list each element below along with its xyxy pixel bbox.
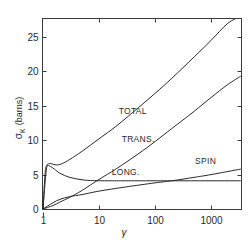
curve-spin [43, 169, 241, 209]
x-axis-ticks: 1101001000 [41, 19, 223, 226]
y-axis-label: σK(barns) [13, 97, 26, 139]
y-tick-label: 15 [27, 101, 39, 112]
x-tick-label: 1000 [200, 215, 223, 226]
y-tick-label: 10 [27, 135, 39, 146]
label-spin: SPIN [195, 156, 216, 166]
x-tick-label: 10 [94, 215, 106, 226]
x-axis-label: γ [122, 227, 128, 238]
y-tick-label: 5 [33, 170, 39, 181]
label-trans: TRANS. [122, 134, 155, 144]
y-axis-ticks: 0510152025 [27, 32, 241, 215]
chart: 0510152025 1101001000 TOTALTRANS.LONG.SP… [0, 0, 252, 251]
svg-text:σK(barns): σK(barns) [13, 97, 26, 139]
y-axis-label-unit: (barns) [14, 97, 24, 126]
y-tick-label: 25 [27, 32, 39, 43]
x-tick-label: 1 [41, 215, 47, 226]
y-tick-label: 0 [33, 204, 39, 215]
curve-long [43, 165, 241, 209]
label-total: TOTAL [119, 106, 147, 116]
y-tick-label: 20 [27, 66, 39, 77]
y-axis-label-subscript: K [19, 128, 26, 133]
label-long: LONG. [112, 167, 140, 177]
x-tick-label: 100 [147, 215, 164, 226]
